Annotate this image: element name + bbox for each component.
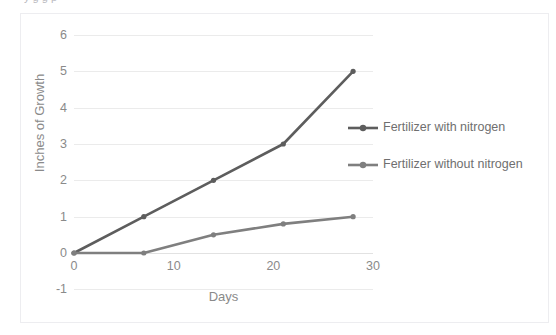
legend-entry[interactable]: Fertilizer with nitrogen (348, 120, 523, 135)
legend-label: Fertilizer with nitrogen (383, 120, 505, 135)
data-point-marker (141, 214, 146, 219)
data-point-marker (281, 221, 286, 226)
series-line (74, 71, 353, 253)
legend-entry[interactable]: Fertilizer without nitrogen (348, 157, 523, 172)
chart-page: y g g p Inches of Growth Days 6543210-1 … (0, 0, 556, 335)
x-tick-label: 30 (366, 259, 380, 273)
data-point-marker (211, 178, 216, 183)
y-tick-label: -1 (56, 282, 67, 296)
y-tick-label: 0 (60, 246, 67, 260)
data-point-marker (351, 69, 356, 74)
y-tick-label: 1 (60, 210, 67, 224)
y-tick-label: 6 (60, 28, 67, 42)
y-tick-label: 3 (60, 137, 67, 151)
x-tick-label: 10 (167, 259, 181, 273)
cut-off-title-text: y g g p (24, 0, 324, 3)
plot-area: 6543210-1 0102030 (74, 35, 373, 253)
gridline (74, 289, 373, 290)
series-lines (74, 35, 373, 253)
legend-label: Fertilizer without nitrogen (383, 157, 523, 172)
data-point-marker (351, 214, 356, 219)
legend-marker-icon (348, 121, 378, 135)
data-point-marker (71, 250, 76, 255)
data-point-marker (141, 250, 146, 255)
x-tick-label: 20 (266, 259, 280, 273)
y-axis-title: Inches of Growth (31, 14, 49, 232)
x-tick-label: 0 (71, 259, 78, 273)
y-tick-label: 2 (60, 173, 67, 187)
data-point-marker (211, 232, 216, 237)
legend-marker-icon (348, 158, 378, 172)
y-tick-label: 5 (60, 64, 67, 78)
y-tick-label: 4 (60, 101, 67, 115)
data-point-marker (281, 141, 286, 146)
legend: Fertilizer with nitrogenFertilizer witho… (348, 120, 523, 194)
x-axis-title: Days (74, 289, 373, 304)
